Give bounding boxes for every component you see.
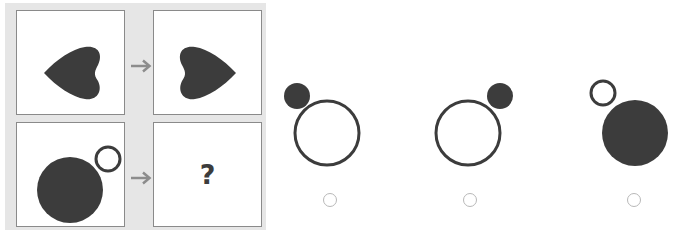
heart-right-icon	[154, 11, 263, 116]
option-b[interactable]	[430, 80, 520, 175]
question-source-cell	[16, 122, 125, 227]
option-c-radio[interactable]	[627, 193, 641, 207]
option-a[interactable]	[282, 80, 364, 175]
option-b-radio[interactable]	[463, 193, 477, 207]
option-c-circles-icon	[588, 78, 673, 178]
option-a-radio[interactable]	[323, 193, 337, 207]
option-a-circles-icon	[282, 80, 364, 175]
circles-icon	[17, 123, 126, 228]
heart-left-icon	[17, 11, 126, 116]
puzzle-panel: ?	[5, 3, 266, 230]
question-mark: ?	[154, 123, 261, 226]
arrow-right-icon	[130, 171, 152, 185]
arrow-right-icon	[130, 59, 152, 73]
example-source-cell	[16, 10, 125, 115]
option-b-circles-icon	[430, 80, 520, 175]
question-target-cell: ?	[153, 122, 262, 227]
example-target-cell	[153, 10, 262, 115]
option-c[interactable]	[588, 78, 673, 178]
